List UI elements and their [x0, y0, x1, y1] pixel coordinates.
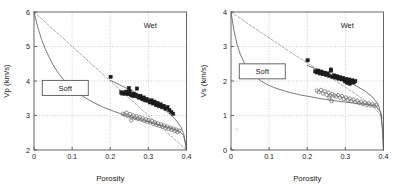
x-tick-label: 0.4 [378, 152, 388, 161]
data-point [329, 99, 333, 103]
x-tick-label: 0.1 [264, 152, 274, 161]
y-tick-label: 2 [223, 77, 227, 86]
y-tick-label: 0 [223, 146, 227, 155]
data-point [109, 75, 112, 78]
data-point [171, 112, 174, 115]
annotation-label-wet: Wet [340, 21, 354, 30]
x-axis-label: Porosity [96, 174, 124, 183]
annotation-label-soft: Soft [59, 84, 73, 93]
annotation-label-soft: Soft [255, 67, 269, 76]
data-point [327, 74, 330, 77]
data-point [305, 59, 308, 62]
x-tick-label: 0.2 [105, 152, 115, 161]
data-point [319, 88, 323, 92]
chart-svg-right: 00.10.20.30.401234PorosityVs (km/s)WetSo… [197, 0, 393, 190]
stray-mark [235, 128, 237, 130]
data-point [329, 68, 332, 71]
y-tick-label: 3 [223, 42, 227, 51]
x-tick-label: 0.4 [182, 152, 192, 161]
data-point [348, 82, 351, 85]
y-tick-label: 4 [26, 77, 30, 86]
x-tick-label: 0 [229, 152, 233, 161]
y-tick-label: 3 [26, 111, 30, 120]
y-axis-label: Vs (km/s) [199, 64, 208, 97]
panel-vs: 00.10.20.30.401234PorosityVs (km/s)WetSo… [197, 0, 393, 190]
x-tick-label: 0 [32, 152, 36, 161]
data-point [353, 79, 356, 82]
series-circles [315, 88, 378, 107]
axis-ticks: 00.10.20.30.401234 [223, 8, 389, 161]
x-tick-label: 0.3 [143, 152, 153, 161]
series-squares [305, 59, 356, 86]
figure-two-panel-velocity-porosity: 00.10.20.30.423456PorosityVp (km/s)WetSo… [0, 0, 393, 190]
x-tick-label: 0.2 [302, 152, 312, 161]
chart-svg-left: 00.10.20.30.423456PorosityVp (km/s)WetSo… [0, 0, 197, 190]
annotation-label-wet: Wet [144, 21, 158, 30]
x-axis-label: Porosity [293, 174, 321, 183]
data-point [128, 90, 131, 93]
gridlines [231, 12, 384, 150]
y-tick-label: 6 [26, 8, 30, 17]
y-tick-label: 1 [223, 111, 227, 120]
x-tick-label: 0.1 [67, 152, 77, 161]
data-point [135, 87, 138, 90]
panel-vp: 00.10.20.30.423456PorosityVp (km/s)WetSo… [0, 0, 197, 190]
y-tick-label: 2 [26, 146, 30, 155]
data-point [127, 86, 130, 89]
y-axis-label: Vp (km/s) [2, 64, 11, 98]
x-tick-label: 0.3 [340, 152, 350, 161]
y-tick-label: 4 [223, 8, 227, 17]
y-tick-label: 5 [26, 42, 30, 51]
